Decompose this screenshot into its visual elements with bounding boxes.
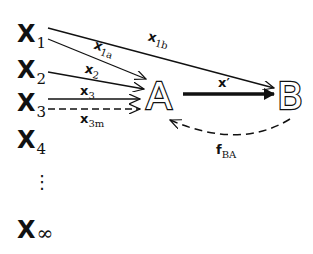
input-x2: X2	[17, 58, 46, 82]
edge-subscript: 3m	[88, 118, 104, 129]
node-b: B	[277, 77, 303, 115]
ellipsis: ⋮	[33, 178, 51, 186]
input-subscript: 2	[37, 70, 47, 88]
edge-subscript: BA	[222, 149, 237, 160]
label-x-prime: x′	[218, 76, 230, 89]
edge-fba	[170, 119, 290, 135]
label-x3m: x3m	[80, 112, 104, 125]
input-x-infinity: X∞	[17, 218, 53, 242]
edge-base: f	[216, 142, 222, 157]
input-subscript: 4	[37, 140, 47, 158]
input-subscript: ∞	[37, 221, 54, 245]
label-x2: x2	[84, 62, 101, 77]
label-x3: x3	[80, 84, 95, 97]
input-base: X	[17, 56, 36, 84]
input-subscript: 1	[37, 34, 47, 52]
input-base: X	[17, 20, 36, 48]
input-subscript: 3	[37, 103, 47, 121]
input-base: X	[17, 126, 36, 154]
edge-subscript: 3	[88, 90, 94, 101]
input-x3: X3	[17, 91, 46, 115]
input-base: X	[17, 216, 36, 244]
label-fba: fBA	[216, 143, 236, 156]
input-x4: X4	[17, 128, 46, 152]
input-base: X	[17, 89, 36, 117]
edge-base: x′	[218, 75, 230, 90]
node-a: A	[146, 77, 172, 115]
input-x1: X1	[17, 22, 46, 46]
